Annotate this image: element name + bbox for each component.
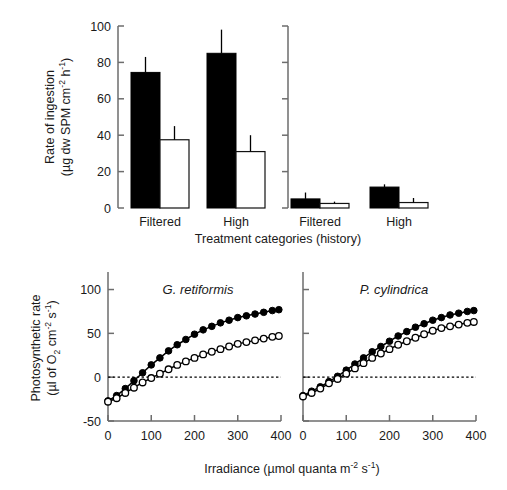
photosynthesis-g-retiformis-xtick-label: 0 <box>105 429 112 443</box>
photosynthesis-g-retiformis-open-circles-point <box>174 362 181 369</box>
photosynthesis-p-cylindrica-open-circles-point <box>334 376 341 383</box>
photosynthesis-p-cylindrica-xtick-label: 300 <box>422 429 443 443</box>
bar-group-label: High <box>223 215 249 229</box>
photosynthesis-g-retiformis-open-circles-point <box>269 334 276 341</box>
photosynthesis-p-cylindrica-open-circles-point <box>395 341 402 348</box>
scientific-figure: 020406080100FilteredHighFilteredHighRate… <box>0 0 507 490</box>
bar-black <box>131 72 160 208</box>
photosynthesis-p-cylindrica-filled-circles-point <box>464 308 471 315</box>
photosynthesis-g-retiformis-filled-circles-point <box>157 355 164 362</box>
photosynthesis-g-retiformis-filled-circles-point <box>217 320 224 327</box>
bar-xaxis-title: Treatment categories (history) <box>195 232 361 246</box>
photosynthesis-p-cylindrica-xtick-label: 0 <box>300 429 307 443</box>
photosynthesis-p-cylindrica-open-circles-point <box>300 393 307 400</box>
photosynthesis-g-retiformis-open-circles-point <box>217 346 224 353</box>
photosynthesis-g-retiformis-ytick-label: 0 <box>94 371 101 385</box>
photosynthesis-p-cylindrica-open-circles-point <box>438 325 445 332</box>
photosynthesis-g-retiformis-filled-circles-point <box>243 313 250 320</box>
photosynthesis-g-retiformis-open-circles-point <box>148 375 155 382</box>
photosynthesis-p-cylindrica-open-circles-point <box>464 320 471 327</box>
photosynthesis-p-cylindrica-open-circles-point <box>471 319 478 326</box>
photosynthesis-g-retiformis-open-circles-point <box>105 398 112 405</box>
photosynthesis-p-cylindrica-open-circles-point <box>421 331 428 338</box>
photosynthesis-p-cylindrica-open-circles-point <box>378 350 385 357</box>
photosynthesis-p-cylindrica-open-circles-point <box>455 321 462 328</box>
photosynthesis-p-cylindrica-filled-circles-point <box>447 312 454 319</box>
photosynthesis-g-retiformis-filled-circles-point <box>148 362 155 369</box>
photosynthesis-g-retiformis-filled-circles-point <box>183 336 190 343</box>
photosynthesis-p-cylindrica-xtick-label: 100 <box>336 429 357 443</box>
photosynthesis-g-retiformis-filled-circles-point <box>139 369 146 376</box>
photosynthesis-p-cylindrica-open-circles-point <box>343 370 350 377</box>
photosynthesis-p-cylindrica-filled-circles-point <box>429 317 436 324</box>
photosynthesis-g-retiformis-xtick-label: 400 <box>271 429 292 443</box>
photosynthesis-p-cylindrica-open-circles-point <box>412 334 419 341</box>
photosynthesis-g-retiformis-open-circles-point <box>200 351 207 358</box>
photosynthesis-p-cylindrica-filled-circles-point <box>438 314 445 321</box>
photosynthesis-p-cylindrica-open-circles-point <box>404 338 411 345</box>
photosynthesis-g-retiformis-filled-circles-point <box>252 311 259 318</box>
photosynthesis-g-retiformis-open-circles-point <box>260 335 267 342</box>
photosynthesis-g-retiformis-xtick-label: 100 <box>141 429 162 443</box>
photosynthesis-g-retiformis-open-circles-point <box>276 333 283 340</box>
photosynthesis-p-cylindrica-filled-circles-point <box>386 338 393 345</box>
bar-ytick-label: 40 <box>97 129 111 143</box>
bar-ytick-label: 0 <box>104 202 111 216</box>
photosynthesis-g-retiformis-title: G. retiformis <box>163 282 234 297</box>
bar-ytick-label: 100 <box>90 20 111 34</box>
photosynthesis-g-retiformis-filled-circles-point <box>165 348 172 355</box>
photosynthesis-g-retiformis-filled-circles-point <box>276 306 283 313</box>
photosynthesis-p-cylindrica-title: P. cylindrica <box>360 282 428 297</box>
photosynthesis-g-retiformis-open-circles-point <box>243 339 250 346</box>
photosynthesis-p-cylindrica-open-circles-point <box>360 360 367 367</box>
photosynthesis-g-retiformis-open-circles-point <box>183 358 190 365</box>
photosynthesis-g-retiformis-xtick-label: 200 <box>184 429 205 443</box>
photosynthesis-p-cylindrica-filled-circles-point <box>378 343 385 350</box>
photosynthesis-p-cylindrica-open-circles-point <box>326 380 333 387</box>
figure-canvas: 020406080100FilteredHighFilteredHighRate… <box>0 0 507 490</box>
photosynthesis-g-retiformis-ytick-label: 100 <box>80 283 101 297</box>
photosynthesis-g-retiformis-open-circles-point <box>122 390 129 397</box>
photosynthesis-p-cylindrica-xtick-label: 400 <box>466 429 487 443</box>
bar-ytick-label: 20 <box>97 165 111 179</box>
photosynthesis-g-retiformis-open-circles-point <box>165 366 172 373</box>
photosynthesis-g-retiformis-open-circles-point <box>234 341 241 348</box>
photosynthesis-p-cylindrica-open-circles-point <box>386 346 393 353</box>
photosynthesis-g-retiformis-filled-circles-point <box>131 377 138 384</box>
bar-black <box>207 53 236 208</box>
photosynthesis-g-retiformis-open-circles-point <box>252 337 259 344</box>
photosynthesis-g-retiformis-filled-circles-point <box>269 307 276 314</box>
bar-white <box>399 203 428 208</box>
photosynthesis-p-cylindrica-filled-circles-point <box>421 320 428 327</box>
photosynthesis-p-cylindrica-open-circles-point <box>369 355 376 362</box>
photosynthesis-g-retiformis-open-circles-line <box>108 336 279 402</box>
photosynthesis-g-retiformis-open-circles-point <box>113 395 120 402</box>
photosynthesis-p-cylindrica-open-circles-point <box>447 323 454 330</box>
photosynthesis-p-cylindrica-filled-circles-point <box>395 333 402 340</box>
photosynthesis-g-retiformis-open-circles-point <box>226 343 233 350</box>
line-yaxis-title-line1: Photosynthetic rate <box>29 294 43 401</box>
photosynthesis-p-cylindrica-open-circles-point <box>352 365 359 372</box>
bar-white <box>236 152 265 208</box>
bar-yaxis-title-line2: (µg dw SPM cm-2 h-1) <box>57 58 73 176</box>
bar-group-label: High <box>386 215 412 229</box>
photosynthesis-g-retiformis-filled-circles-point <box>226 317 233 324</box>
bar-group-label: Filtered <box>299 215 341 229</box>
photosynthesis-g-retiformis-filled-circles-point <box>234 314 241 321</box>
photosynthesis-g-retiformis-filled-circles-point <box>191 331 198 338</box>
photosynthesis-g-retiformis-open-circles-point <box>191 355 198 362</box>
bar-yaxis-title-line1: Rate of ingestion <box>43 70 57 164</box>
photosynthesis-g-retiformis-ytick-label: 50 <box>87 327 101 341</box>
photosynthesis-p-cylindrica-filled-circles-point <box>471 307 478 314</box>
photosynthesis-g-retiformis-filled-circles-point <box>260 309 267 316</box>
line-yaxis-title-line2: (µl of O2 cm-2 s-1) <box>43 300 62 395</box>
bar-white <box>320 203 349 208</box>
photosynthesis-g-retiformis-ytick-label: -50 <box>83 415 101 429</box>
photosynthesis-g-retiformis-filled-circles-point <box>209 323 216 330</box>
bar-group-label: Filtered <box>139 215 181 229</box>
bar-black <box>291 199 320 208</box>
photosynthesis-g-retiformis-open-circles-point <box>209 348 216 355</box>
photosynthesis-g-retiformis-filled-circles-point <box>200 327 207 334</box>
photosynthesis-p-cylindrica-filled-circles-point <box>455 310 462 317</box>
bar-ytick-label: 80 <box>97 56 111 70</box>
